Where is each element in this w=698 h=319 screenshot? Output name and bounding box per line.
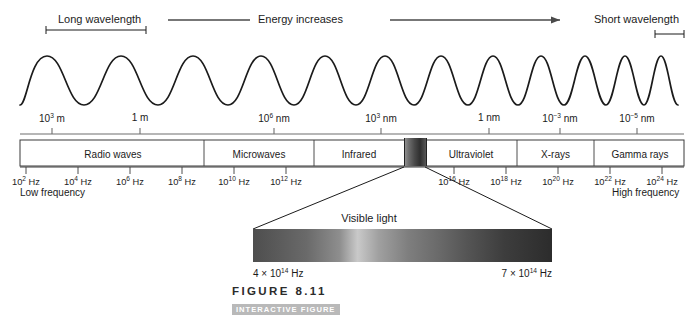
frequency-tick-label: 1018 Hz xyxy=(490,176,522,187)
spectrum-band-label: Ultraviolet xyxy=(425,147,517,162)
wave-curve xyxy=(20,56,678,105)
low-frequency-label: Low frequency xyxy=(20,188,85,198)
wavelength-tick-label: 1 m xyxy=(132,113,149,123)
wavelength-tick-label: 1 nm xyxy=(478,113,500,123)
spectrum-band-label: Infrared xyxy=(314,147,404,162)
frequency-tick-label: 106 Hz xyxy=(116,176,144,187)
visible-light-right-frequency: 7 × 1014 Hz xyxy=(502,268,552,279)
frequency-axis-ticks xyxy=(26,167,662,174)
short-wavelength-bracket xyxy=(655,30,684,38)
wavelength-tick-label: 106 nm xyxy=(258,113,289,124)
frequency-tick-label: 102 Hz xyxy=(12,176,40,187)
frequency-tick-label: 1012 Hz xyxy=(270,176,302,187)
wavelength-tick-label: 103 m xyxy=(39,113,65,124)
wavelength-tick-label: 10−3 nm xyxy=(542,113,577,124)
visible-light-label: Visible light xyxy=(341,213,396,224)
frequency-tick-label: 1010 Hz xyxy=(218,176,250,187)
visible-light-block xyxy=(404,138,427,166)
spectrum-band-label: Radio waves xyxy=(22,147,204,162)
spectrum-band-label: Gamma rays xyxy=(594,147,686,162)
spectrum-band-label: X-rays xyxy=(517,147,594,162)
long-wavelength-label: Long wavelength xyxy=(58,14,141,25)
wavelength-axis-ticks xyxy=(52,128,637,134)
high-frequency-label: High frequency xyxy=(612,188,679,198)
figure-caption: FIGURE 8.11 INTERACTIVE FIGURE MP xyxy=(232,286,340,316)
visible-light-left-frequency: 4 × 1014 Hz xyxy=(253,268,303,279)
figure-number: FIGURE 8.11 xyxy=(232,286,340,298)
visible-light-spectrum-bar xyxy=(253,229,552,262)
frequency-tick-label: 1022 Hz xyxy=(594,176,626,187)
frequency-tick-label: 1024 Hz xyxy=(646,176,678,187)
spectrum-band-label: Microwaves xyxy=(204,147,314,162)
electromagnetic-spectrum-figure: Long wavelength Short wavelength Energy … xyxy=(0,0,698,319)
wavelength-tick-label: 10−5 nm xyxy=(619,113,654,124)
energy-increases-arrow xyxy=(168,17,560,24)
energy-increases-label: Energy increases xyxy=(258,14,343,25)
frequency-tick-label: 108 Hz xyxy=(168,176,196,187)
frequency-tick-label: 1020 Hz xyxy=(542,176,574,187)
interactive-figure-badge[interactable]: INTERACTIVE FIGURE xyxy=(232,304,340,316)
frequency-tick-label: 1016 Hz xyxy=(438,176,470,187)
wavelength-tick-label: 103 nm xyxy=(365,113,396,124)
short-wavelength-label: Short wavelength xyxy=(594,14,679,25)
frequency-tick-label: 104 Hz xyxy=(64,176,92,187)
long-wavelength-bracket xyxy=(46,26,146,34)
